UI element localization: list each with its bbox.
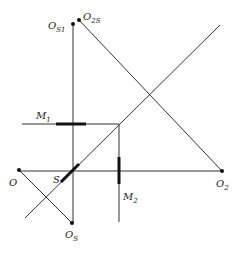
label-m1: M1 [35, 110, 51, 124]
o2s-to-o2-line [79, 20, 222, 171]
label-os: OS [65, 229, 78, 243]
point-os1 [71, 22, 75, 26]
point-os [70, 221, 74, 225]
label-m2: M2 [122, 191, 138, 205]
label-o2s: O2S [83, 11, 101, 25]
point-o [17, 168, 21, 172]
label-os1: OS1 [48, 20, 65, 34]
optical-diagram: OS1 O2S M1 O S M2 O2 OS [0, 0, 240, 255]
mirror-segments [56, 124, 119, 184]
point-o2 [220, 169, 224, 173]
label-o: O [9, 177, 17, 188]
label-o2: O2 [216, 178, 229, 192]
point-o2s [77, 18, 81, 22]
label-s: S [53, 174, 60, 185]
main-diagonal-line [25, 25, 220, 218]
s-splitter-segment [61, 164, 79, 182]
